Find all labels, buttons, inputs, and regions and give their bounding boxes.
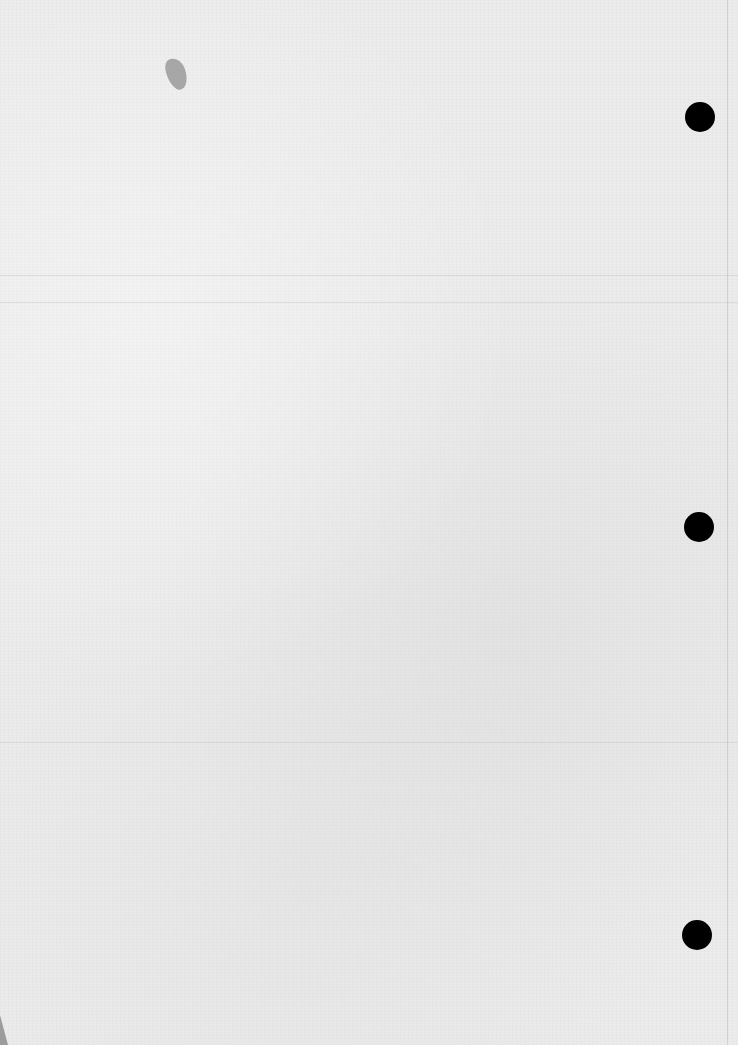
- punch-hole-top: [685, 102, 715, 132]
- corner-shadow: [0, 1015, 8, 1045]
- punch-hole-middle: [684, 512, 714, 542]
- page-edge-line: [727, 0, 728, 1045]
- smudge-mark: [163, 56, 191, 92]
- scan-artifact-line: [0, 275, 738, 276]
- scan-artifact-line: [0, 302, 738, 303]
- punch-hole-bottom: [682, 920, 712, 950]
- scan-artifact-line: [0, 742, 738, 743]
- scanned-blank-page: [0, 0, 738, 1045]
